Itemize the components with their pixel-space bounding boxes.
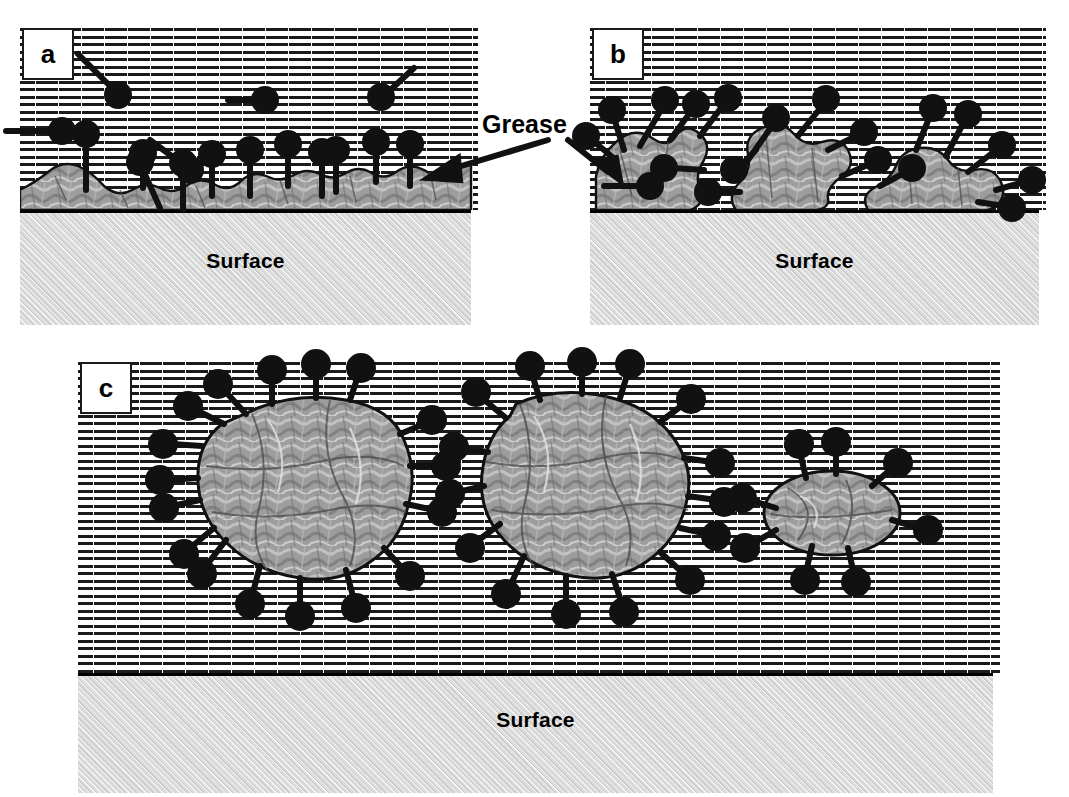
panel-a-surface-label: Surface — [20, 249, 471, 273]
panel-a-water-phase — [20, 26, 478, 210]
panel-c-letter: c — [99, 373, 113, 404]
panel-c-surface-block: Surface — [78, 673, 993, 793]
panel-b-letter-badge: b — [592, 28, 644, 80]
panel-c-letter-badge: c — [80, 362, 132, 414]
panel-b-water-phase — [590, 26, 1046, 210]
panel-a-surface-block: Surface — [20, 210, 471, 325]
panel-b-surface-block: Surface — [590, 210, 1039, 325]
panel-b-letter: b — [610, 39, 626, 70]
grease-label: Grease — [482, 110, 567, 139]
panel-b-surface-label: Surface — [590, 249, 1039, 273]
panel-c-surface-label: Surface — [78, 708, 993, 732]
figure-canvas: Surface — [0, 0, 1069, 797]
panel-a-letter: a — [41, 39, 55, 70]
panel-c-water-phase — [78, 360, 1000, 673]
panel-a-letter-badge: a — [22, 28, 74, 80]
